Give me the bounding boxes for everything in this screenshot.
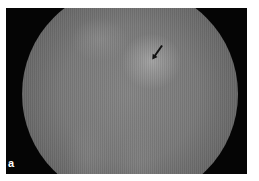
circular-scope-view xyxy=(22,8,238,174)
panel-label: a xyxy=(8,157,17,169)
image-frame xyxy=(6,8,247,174)
